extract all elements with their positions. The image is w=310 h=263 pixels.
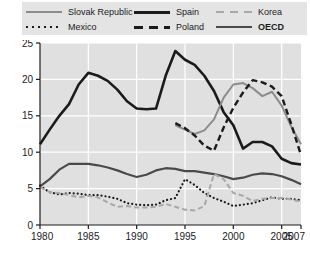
y-tick-label-0: 0: [27, 220, 33, 231]
legend-label-poland: Poland: [176, 22, 204, 32]
legend-item-oecd: OECD: [216, 19, 284, 35]
x-tick-label-1985: 1985: [77, 231, 100, 242]
x-tick-label-2007: 2007: [283, 231, 306, 242]
chart-legend: Slovak Republic Spain Korea Mexico Polan…: [22, 2, 307, 35]
x-tick-label-1990: 1990: [126, 231, 149, 242]
legend-item-mexico: Mexico: [26, 19, 97, 35]
legend-item-korea: Korea: [216, 4, 282, 20]
plot-background-group: [40, 43, 301, 225]
y-tick-label-10: 10: [22, 147, 34, 158]
legend-label-oecd: OECD: [258, 22, 284, 32]
y-tick-label-25: 25: [22, 40, 34, 49]
legend-line-swatch-slovak-republic: [26, 6, 62, 18]
chart-figure: Slovak Republic Spain Korea Mexico Polan…: [0, 0, 310, 263]
x-tick-label-2000: 2000: [222, 231, 245, 242]
x-tick-label-1995: 1995: [174, 231, 197, 242]
y-tick-label-15: 15: [22, 110, 34, 121]
legend-item-poland: Poland: [134, 19, 204, 35]
plot-background: [40, 43, 301, 225]
plot-area: 05101520251980198519901995200020052007: [0, 40, 310, 263]
legend-label-mexico: Mexico: [68, 22, 97, 32]
y-tick-label-5: 5: [27, 183, 33, 194]
y-tick-label-20: 20: [22, 74, 34, 85]
legend-item-slovak-republic: Slovak Republic: [26, 4, 133, 20]
legend-row-2: Mexico Poland OECD: [22, 19, 307, 35]
legend-line-swatch-poland: [134, 21, 170, 33]
legend-label-slovak-republic: Slovak Republic: [68, 7, 133, 17]
line-chart-svg: 05101520251980198519901995200020052007: [0, 40, 310, 263]
legend-line-swatch-korea: [216, 6, 252, 18]
legend-row-1: Slovak Republic Spain Korea: [22, 4, 307, 20]
legend-label-spain: Spain: [176, 7, 199, 17]
legend-line-swatch-oecd: [216, 21, 252, 33]
legend-line-swatch-mexico: [26, 21, 62, 33]
legend-item-spain: Spain: [134, 4, 199, 20]
legend-line-swatch-spain: [134, 6, 170, 18]
x-tick-label-1980: 1980: [31, 231, 54, 242]
legend-label-korea: Korea: [258, 7, 282, 17]
